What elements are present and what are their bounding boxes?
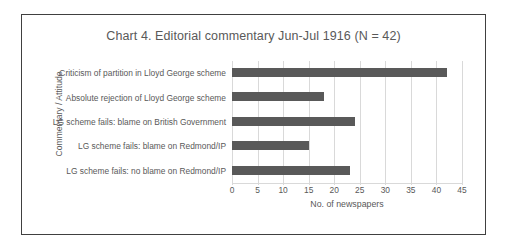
bar-series [232, 61, 462, 183]
category-label: LG scheme fails: blame on Redmond/IP [48, 141, 226, 151]
gridline [462, 61, 463, 183]
bar-row [232, 85, 462, 109]
bar-row [232, 159, 462, 183]
category-label: LG scheme fails: blame on British Govern… [48, 117, 226, 127]
category-axis-labels: Criticism of partition in Lloyd George s… [52, 61, 230, 183]
bar-row [232, 61, 462, 85]
category-label: Absolute rejection of Lloyd George schem… [48, 93, 226, 103]
x-tick-label: 25 [355, 185, 364, 195]
bar-row [232, 134, 462, 158]
category-label: LG scheme fails: no blame on Redmond/IP [48, 166, 226, 176]
chart-card: Chart 4. Editorial commentary Jun-Jul 19… [21, 14, 486, 235]
x-tick-label: 10 [278, 185, 287, 195]
x-tick-label: 20 [330, 185, 339, 195]
x-tick-label: 15 [304, 185, 313, 195]
x-tick-label: 40 [432, 185, 441, 195]
x-tick-label: 5 [255, 185, 260, 195]
bar [232, 166, 350, 175]
x-axis-baseline [232, 183, 462, 184]
x-axis-title: No. of newspapers [232, 199, 462, 209]
x-axis-tick-labels: 051015202530354045 [232, 185, 462, 197]
bar-row [232, 110, 462, 134]
bar [232, 68, 447, 77]
bar [232, 141, 309, 150]
x-tick-label: 45 [457, 185, 466, 195]
x-tick-label: 35 [406, 185, 415, 195]
x-tick-label: 0 [230, 185, 235, 195]
plot-area [232, 61, 462, 183]
bar [232, 117, 355, 126]
category-label: Criticism of partition in Lloyd George s… [48, 68, 226, 78]
x-tick-label: 30 [381, 185, 390, 195]
bar [232, 92, 324, 101]
chart-title: Chart 4. Editorial commentary Jun-Jul 19… [22, 29, 485, 43]
